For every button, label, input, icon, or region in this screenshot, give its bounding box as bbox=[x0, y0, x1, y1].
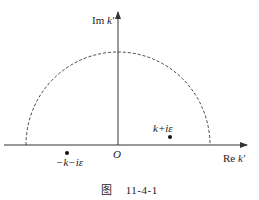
figure-caption: 图 11-4-1 bbox=[0, 181, 259, 197]
pole-lower bbox=[65, 151, 69, 155]
complex-plane-diagram bbox=[0, 0, 259, 200]
pole-upper-label: k+iε bbox=[153, 122, 173, 134]
pole-upper bbox=[168, 135, 172, 139]
pole-lower-label: −k−iε bbox=[56, 156, 83, 168]
origin-label: O bbox=[113, 148, 121, 160]
x-axis-label: Re k′ bbox=[223, 152, 245, 164]
y-axis-label: Im k′ bbox=[92, 14, 114, 26]
